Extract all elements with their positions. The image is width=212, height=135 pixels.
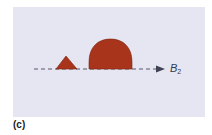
axis-label-b2: B2 [170,62,181,75]
panel-caption: (c) [13,119,25,130]
large-dome-peak [89,39,132,69]
diagram-panel: B2 [13,7,205,117]
small-triangle-peak [56,56,77,69]
arrowhead-icon [156,66,165,73]
